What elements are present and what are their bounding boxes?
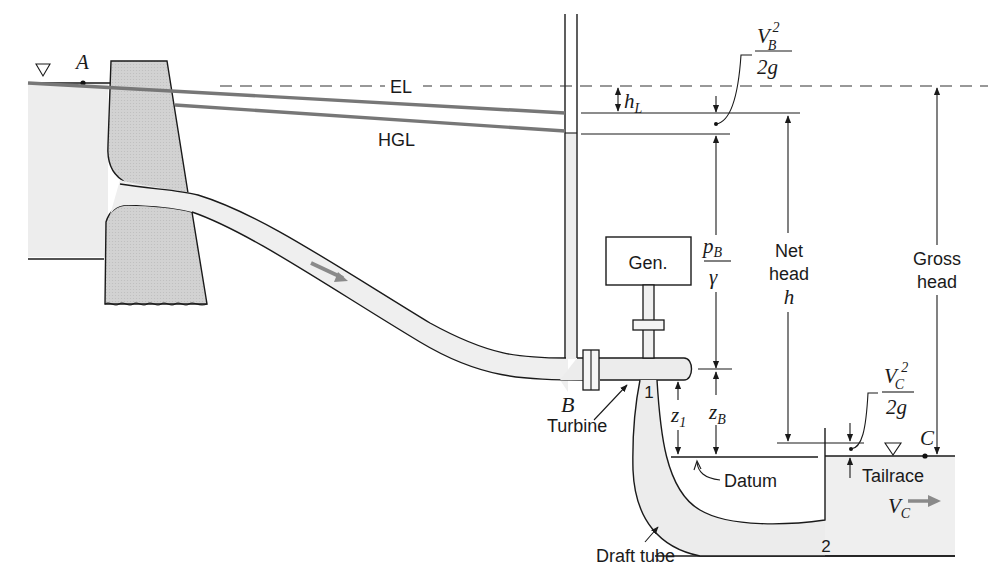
pressure-head-denominator: γ — [709, 265, 718, 289]
velocity-head-C-numerator: VC2 — [884, 360, 908, 392]
datum-leader — [697, 462, 720, 480]
piezometer-water — [566, 133, 576, 359]
velocity-head-B-denominator: 2g — [757, 55, 778, 79]
hgl-label: HGL — [378, 130, 415, 150]
net-head-symbol: h — [784, 285, 795, 309]
datum: Datum — [671, 457, 818, 491]
net-head-label-line2: head — [769, 264, 809, 284]
draft-tube-fill — [633, 380, 825, 556]
reservoir-water — [28, 82, 108, 257]
tailrace-label: Tailrace — [862, 466, 924, 486]
elevation-B-dimension: zB — [698, 369, 732, 454]
point-A-label: A — [74, 50, 89, 74]
dam-lower-block — [105, 205, 207, 304]
velocity-head-C-leader — [851, 393, 878, 449]
generator: Gen. — [606, 237, 691, 358]
turbine-pipe-fill — [560, 358, 692, 380]
free-surface-icon — [36, 64, 50, 76]
shaft-coupling — [633, 320, 664, 330]
tailrace-free-surface-icon — [885, 443, 901, 455]
z1-label: z1 — [670, 403, 686, 430]
piezometer-tube — [565, 14, 577, 359]
net-head-dimension: Net head h — [769, 116, 864, 443]
draft-tube-leader — [645, 527, 658, 542]
zB-label: zB — [708, 400, 726, 427]
gross-head-label-line1: Gross — [913, 249, 961, 269]
point-C-label: C — [920, 426, 935, 450]
turbine-pipe — [560, 350, 692, 390]
point-C-marker — [922, 453, 927, 458]
section-1-label: 1 — [644, 383, 653, 402]
gross-head-dimension: Gross head — [913, 88, 961, 454]
head-loss-dimension: hL — [618, 88, 643, 116]
turbine-label: Turbine — [547, 416, 607, 436]
dam-upper-block — [108, 61, 188, 193]
hydro-turbine-diagram: A Gen. C — [0, 0, 988, 587]
elevation-1-dimension: z1 — [670, 382, 686, 454]
velocity-head-B-numerator: VB2 — [757, 20, 779, 53]
velocity-head-B-leader — [716, 55, 752, 124]
velocity-head-B: VB2 2g — [714, 20, 792, 126]
section-2-label: 2 — [821, 537, 830, 556]
upstream-reservoir: A — [28, 50, 112, 259]
datum-label: Datum — [724, 471, 777, 491]
energy-line — [28, 83, 565, 113]
net-head-label-line1: Net — [775, 241, 803, 261]
velocity-head-C-denominator: 2g — [886, 395, 907, 419]
el-label: EL — [390, 77, 412, 97]
pressure-head-numerator: pB — [701, 234, 723, 260]
head-loss-label: hL — [624, 89, 643, 116]
point-B-label: B — [561, 392, 574, 417]
draft-tube-label: Draft tube — [596, 546, 675, 566]
gross-head-label-line2: head — [917, 272, 957, 292]
generator-label: Gen. — [628, 253, 667, 273]
pressure-head-B: pB γ — [701, 136, 731, 368]
